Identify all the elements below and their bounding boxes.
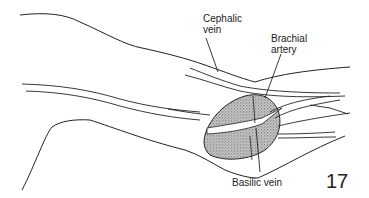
arm-lower-outline (22, 120, 345, 190)
cephalic-vein (190, 68, 340, 93)
forearm-upper-outline (255, 67, 350, 82)
label-brachial-artery: Brachial artery (271, 33, 307, 55)
label-cephalic-vein: Cephalic vein (203, 13, 242, 35)
figure-number: 17 (326, 170, 348, 193)
label-basilic-vein: Basilic vein (232, 177, 282, 188)
arm-diagram (0, 0, 369, 198)
cephalic-vein-leader (206, 38, 218, 72)
